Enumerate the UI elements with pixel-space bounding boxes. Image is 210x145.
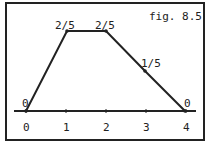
point-label: 1/5 bbox=[141, 57, 161, 70]
point-label: 0 bbox=[22, 97, 29, 110]
tick-label: 1 bbox=[63, 121, 70, 134]
vertex-dots bbox=[24, 29, 187, 113]
point-label: 0 bbox=[184, 97, 191, 110]
tick-label: 0 bbox=[23, 121, 30, 134]
piecewise-linear-graph bbox=[26, 31, 185, 111]
point-label: 2/5 bbox=[55, 19, 75, 32]
point-label: 2/5 bbox=[95, 19, 115, 32]
tick-label: 4 bbox=[183, 121, 190, 134]
tick-label: 2 bbox=[103, 121, 110, 134]
figure-diagram: fig. 8.5 0 2/5 2/5 1/5 0 0 1 2 3 4 bbox=[0, 0, 210, 145]
figure-caption: fig. 8.5 bbox=[149, 10, 202, 23]
tick-label: 3 bbox=[143, 121, 150, 134]
